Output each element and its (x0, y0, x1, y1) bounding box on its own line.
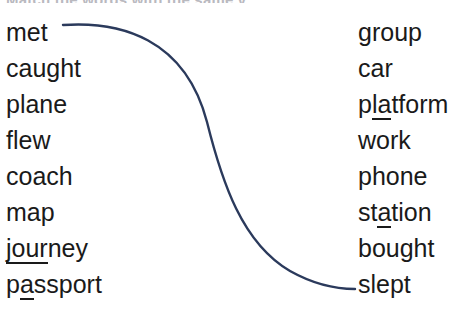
word-item-right-4[interactable]: work (358, 122, 448, 158)
word-suffix: tion (391, 198, 431, 226)
word-item-right-3[interactable]: platform (358, 86, 448, 122)
word-text: map (6, 198, 55, 226)
word-text: plane (6, 90, 67, 118)
word-item-left-5[interactable]: coach (6, 158, 102, 194)
word-item-right-8[interactable]: slept (358, 266, 448, 302)
word-item-left-6[interactable]: map (6, 194, 102, 230)
word-suffix: ssport (34, 270, 102, 298)
word-item-right-1[interactable]: group (358, 14, 448, 50)
stressed-syllable: la (372, 90, 391, 120)
instruction-line: Match the words with the same v (6, 0, 446, 3)
word-item-right-5[interactable]: phone (358, 158, 448, 194)
word-text: p (358, 90, 372, 118)
word-item-right-6[interactable]: station (358, 194, 448, 230)
right-word-column: group car platform work phone station bo… (358, 14, 448, 302)
word-text: group (358, 18, 422, 46)
word-text: caught (6, 54, 81, 82)
word-item-right-2[interactable]: car (358, 50, 448, 86)
stressed-syllable: a (20, 270, 34, 300)
word-item-left-8[interactable]: passport (6, 266, 102, 302)
word-text: work (358, 126, 411, 154)
word-item-left-2[interactable]: caught (6, 50, 102, 86)
word-item-left-1[interactable]: met (6, 14, 102, 50)
word-text: st (358, 198, 377, 226)
word-item-right-7[interactable]: bought (358, 230, 448, 266)
word-text: flew (6, 126, 50, 154)
left-word-column: met caught plane flew coach map journey … (6, 14, 102, 302)
word-text: p (6, 270, 20, 298)
word-item-left-4[interactable]: flew (6, 122, 102, 158)
word-item-left-7[interactable]: journey (6, 230, 102, 266)
word-suffix: ney (48, 234, 88, 262)
word-text: car (358, 54, 393, 82)
word-suffix: tform (391, 90, 448, 118)
stressed-syllable: jour (6, 234, 48, 264)
word-item-left-3[interactable]: plane (6, 86, 102, 122)
word-text: phone (358, 162, 428, 190)
connector-curve-met-to-slept (63, 24, 355, 289)
stressed-syllable: a (377, 198, 391, 228)
word-text: slept (358, 270, 411, 298)
word-text: met (6, 18, 48, 46)
word-text: bought (358, 234, 434, 262)
worksheet: Match the words with the same v met caug… (0, 0, 467, 315)
word-text: coach (6, 162, 73, 190)
